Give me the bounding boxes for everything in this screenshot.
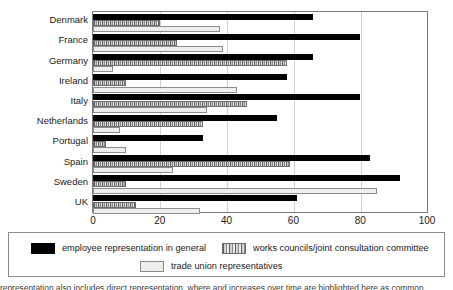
category-label-netherlands: Netherlands — [0, 116, 88, 126]
legend-entry-union: trade union representatives — [140, 259, 282, 273]
category-label-germany: Germany — [0, 56, 88, 66]
bar-ireland-general — [93, 74, 287, 80]
page-caption-sliver: representation also includes direct repr… — [0, 283, 453, 290]
bar-germany-general — [93, 54, 313, 60]
bar-uk-general — [93, 195, 297, 201]
legend-label-union: trade union representatives — [171, 261, 282, 272]
bar-germany-union — [93, 66, 113, 72]
bar-ireland-works — [93, 80, 126, 86]
bar-ireland-union — [93, 87, 237, 93]
bar-italy-general — [93, 94, 360, 100]
category-label-ireland: Ireland — [0, 76, 88, 86]
bar-france-works — [93, 40, 177, 46]
legend-row-bottom: trade union representatives — [9, 259, 444, 273]
plot-area — [92, 11, 428, 213]
xtick-60: 60 — [273, 215, 313, 226]
legend-label-general: employee representation in general — [62, 243, 206, 254]
bar-denmark-works — [93, 20, 160, 26]
gridline-40 — [227, 12, 228, 212]
bar-denmark-general — [93, 14, 313, 20]
chart-figure: DenmarkFranceGermanyIrelandItalyNetherla… — [0, 0, 453, 290]
bar-sweden-general — [93, 175, 400, 181]
xtick-20: 20 — [140, 215, 180, 226]
legend-swatch-union-icon — [140, 261, 164, 272]
bar-sweden-union — [93, 188, 377, 194]
category-label-france: France — [0, 35, 88, 45]
category-label-portugal: Portugal — [0, 136, 88, 146]
legend-entry-works: works councils/joint consultation commit… — [222, 241, 429, 255]
category-label-italy: Italy — [0, 96, 88, 106]
bar-germany-works — [93, 60, 287, 66]
bar-spain-union — [93, 167, 173, 173]
bar-sweden-works — [93, 181, 126, 187]
legend-swatch-general-icon — [31, 243, 55, 254]
bar-netherlands-works — [93, 121, 203, 127]
category-label-denmark: Denmark — [0, 15, 88, 25]
xtick-100: 100 — [407, 215, 447, 226]
xtick-0: 0 — [73, 215, 113, 226]
bar-italy-union — [93, 107, 207, 113]
chart-legend: employee representation in general works… — [8, 232, 445, 277]
bar-portugal-union — [93, 147, 126, 153]
bar-uk-works — [93, 202, 136, 208]
legend-row-top: employee representation in general works… — [9, 241, 444, 255]
bar-france-union — [93, 46, 223, 52]
bar-spain-works — [93, 161, 290, 167]
legend-label-works: works councils/joint consultation commit… — [253, 243, 429, 254]
legend-swatch-works-icon — [222, 243, 246, 254]
bar-uk-union — [93, 208, 200, 214]
xtick-40: 40 — [207, 215, 247, 226]
gridline-80 — [361, 12, 362, 212]
bar-portugal-works — [93, 141, 106, 147]
bar-netherlands-general — [93, 115, 277, 121]
bar-portugal-general — [93, 135, 203, 141]
bar-netherlands-union — [93, 127, 120, 133]
bar-italy-works — [93, 101, 247, 107]
bar-france-general — [93, 34, 360, 40]
plot-wrapper: DenmarkFranceGermanyIrelandItalyNetherla… — [0, 0, 453, 222]
category-label-spain: Spain — [0, 157, 88, 167]
bar-spain-general — [93, 155, 370, 161]
xtick-80: 80 — [340, 215, 380, 226]
category-label-uk: UK — [0, 197, 88, 207]
legend-entry-general: employee representation in general — [31, 241, 206, 255]
category-label-sweden: Sweden — [0, 177, 88, 187]
gridline-60 — [294, 12, 295, 212]
bar-denmark-union — [93, 26, 220, 32]
